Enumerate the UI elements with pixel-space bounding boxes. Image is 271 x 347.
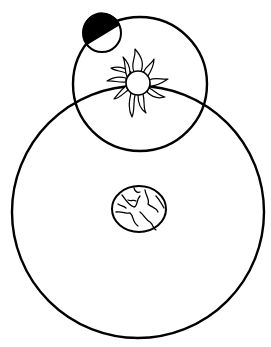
- globe-icon: [112, 186, 166, 232]
- moon-phase-icon: [83, 12, 121, 52]
- sun-icon: [107, 49, 168, 117]
- orbit-diagram: Earth Sun Moon: [0, 0, 271, 347]
